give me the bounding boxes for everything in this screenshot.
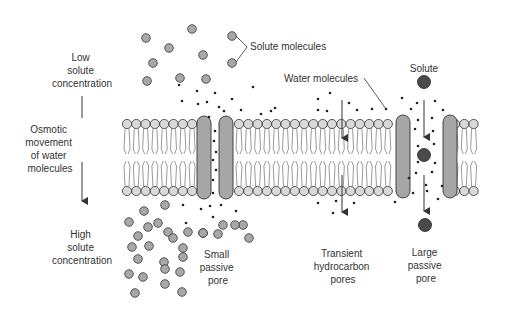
solute-molecule (188, 25, 197, 34)
lipid-head (160, 186, 169, 195)
water-molecule (441, 185, 444, 188)
lipid-tail (273, 161, 279, 186)
lipid-tail (236, 129, 242, 154)
water-molecule (434, 162, 437, 165)
water-molecule (212, 159, 215, 162)
water-molecule (410, 108, 413, 111)
lipid-head (355, 119, 364, 128)
lipid-head (365, 119, 374, 128)
large-solute-molecule (418, 149, 431, 162)
solute-molecule (142, 34, 151, 43)
lipid-tail (264, 129, 270, 154)
water-molecule (270, 110, 273, 113)
lipid-head (469, 186, 478, 195)
lipid-tail (461, 129, 467, 154)
water-molecule (200, 208, 203, 211)
solute-molecule (144, 223, 153, 232)
lipid-head (281, 186, 290, 195)
protein-pore (197, 116, 211, 199)
water-molecule (178, 84, 181, 87)
lipid-tail (366, 129, 372, 154)
lipid-tail (357, 129, 363, 154)
solute-molecule (125, 270, 134, 279)
lipid-head (244, 119, 253, 128)
lipid-head (309, 119, 318, 128)
solute-molecule (161, 280, 170, 289)
solute-molecule (184, 228, 193, 237)
lipid-tail (348, 129, 354, 154)
lipid-tail (143, 129, 149, 154)
lipid-head (272, 119, 281, 128)
water-molecule (240, 109, 243, 112)
water-molecule (274, 107, 277, 110)
solute-molecule (178, 288, 187, 297)
solute-molecule (239, 221, 248, 230)
lipid-tail (301, 129, 307, 154)
solute-molecule (140, 207, 149, 216)
lipid-tail (245, 161, 251, 186)
solute-molecule (134, 255, 143, 264)
solute-molecule (245, 234, 254, 243)
solute-molecule (165, 44, 174, 53)
lipid-tail (236, 161, 242, 186)
lipid-head (290, 119, 299, 128)
protein-pore (219, 116, 233, 199)
lipid-head (160, 119, 169, 128)
lipid-tail (471, 161, 477, 186)
lipid-head (337, 119, 346, 128)
diagram-canvas: Low solute concentration Osmotic movemen… (0, 0, 506, 309)
lipid-head (122, 186, 131, 195)
lipid-head (253, 186, 262, 195)
lipid-tail (255, 161, 261, 186)
lipid-head (141, 119, 150, 128)
lipid-head (346, 119, 355, 128)
water-molecule (218, 106, 221, 109)
water-molecule (220, 204, 223, 207)
water-molecule (206, 101, 209, 104)
protein-pore (396, 115, 410, 198)
water-molecule (182, 204, 185, 207)
solute-molecule (145, 242, 154, 251)
water-molecule (356, 109, 359, 112)
water-molecule (412, 192, 415, 195)
lipid-head (150, 119, 159, 128)
lipid-head (262, 186, 271, 195)
solute-molecule (128, 243, 137, 252)
water-molecule (215, 151, 218, 154)
solute-molecules-leader (236, 36, 247, 62)
lipid-head (383, 186, 392, 195)
large-solute-molecule (419, 219, 432, 232)
lipid-tail (310, 129, 316, 154)
solute-molecule (199, 51, 208, 60)
lipid-head (469, 119, 478, 128)
water-molecule (335, 200, 338, 203)
lipid-tail (133, 161, 139, 186)
water-molecule (329, 92, 332, 95)
low-concentration-label: Low solute concentration (52, 52, 112, 89)
lipid-head (365, 186, 374, 195)
lipid-head (318, 186, 327, 195)
solute-molecule (228, 59, 237, 68)
lipid-tail (357, 161, 363, 186)
lipid-head (244, 186, 253, 195)
solute-molecule (179, 253, 188, 262)
water-molecule (212, 179, 215, 182)
lipid-tail (301, 161, 307, 186)
lipid-head (178, 119, 187, 128)
water-molecule (326, 110, 329, 113)
lipid-head (346, 186, 355, 195)
solute-molecule (219, 221, 228, 230)
lipid-tail (152, 129, 158, 154)
water-molecule (208, 116, 211, 119)
lipid-head (253, 119, 262, 128)
water-molecule (209, 205, 212, 208)
lipid-tail (348, 161, 354, 186)
lipid-tail (264, 161, 270, 186)
lipid-tail (124, 129, 130, 154)
water-molecule (415, 172, 418, 175)
solute-molecule (139, 273, 148, 282)
solute-molecule (199, 229, 208, 238)
water-molecule (196, 90, 199, 93)
lipid-tail (245, 129, 251, 154)
lipid-head (374, 119, 383, 128)
